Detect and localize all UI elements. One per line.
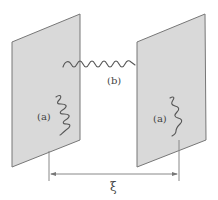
arrowhead-right-icon — [172, 172, 178, 176]
left-plate — [12, 14, 80, 167]
separation-label: ξ — [110, 180, 117, 194]
casimir-plates-diagram: (a) (a) (b) ξ — [0, 0, 218, 200]
left-mode-label: (a) — [37, 111, 51, 122]
arrowhead-left-icon — [50, 172, 56, 176]
right-mode-label: (a) — [153, 113, 167, 124]
right-plate — [137, 14, 206, 167]
gap-mode-label: (b) — [107, 75, 121, 86]
